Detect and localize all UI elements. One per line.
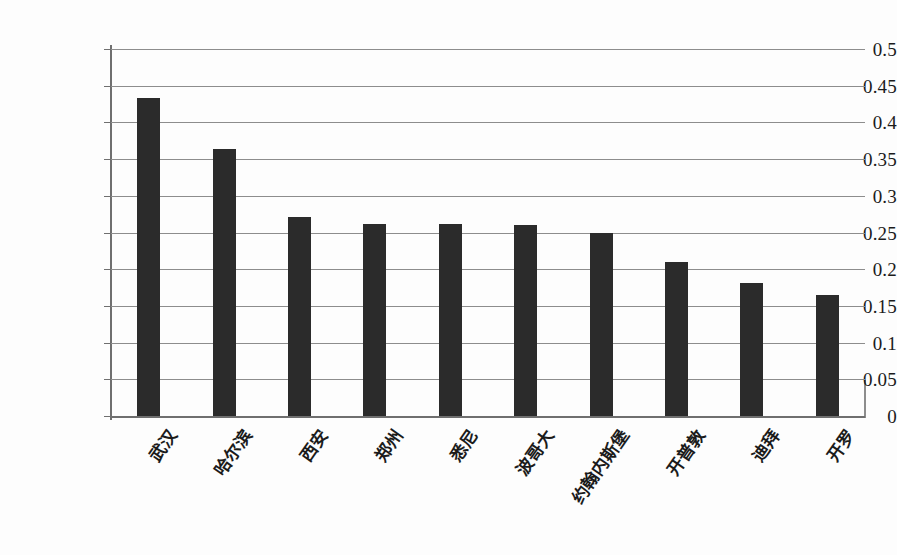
bar [213, 149, 236, 416]
bar [514, 225, 537, 416]
x-tick-label: 武汉 [141, 424, 181, 466]
gridline [111, 122, 865, 123]
gridline [111, 49, 865, 50]
bar [816, 295, 839, 416]
bar [439, 224, 462, 416]
x-tick-label: 西安 [292, 424, 332, 466]
bar [740, 283, 763, 416]
x-tick-label: 开罗 [820, 424, 860, 466]
gridline [111, 86, 865, 87]
bar [137, 98, 160, 416]
plot-area [111, 49, 865, 416]
bar [590, 233, 613, 416]
bar [288, 217, 311, 416]
axis-baseline [111, 416, 865, 418]
x-tick-label: 约翰内斯堡 [564, 424, 633, 508]
x-tick-label: 悉尼 [443, 424, 483, 466]
x-tick-label: 迪拜 [744, 424, 784, 466]
x-tick-label: 哈尔滨 [207, 424, 257, 480]
x-tick-label: 郑州 [367, 424, 407, 466]
bar [665, 262, 688, 416]
x-tick-label: 波哥大 [508, 424, 558, 480]
bar [363, 224, 386, 416]
x-tick-label: 开普敦 [659, 424, 709, 480]
bar-chart: 0.50.450.40.350.30.250.20.150.10.050 武汉哈… [0, 0, 897, 555]
